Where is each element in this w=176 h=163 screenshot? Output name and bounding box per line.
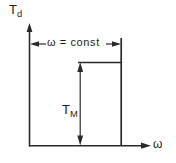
arrow-up-icon [77,62,83,72]
diagram-canvas [0,0,176,163]
height-dimension [77,62,83,146]
arrow-right-icon [112,41,121,47]
y-axis [27,23,33,147]
y-axis-label-base: T [9,2,17,17]
y-axis-label-subscript: d [17,9,22,19]
technical-diagram: Td ω ω = const TM [0,0,176,163]
y-axis-arrowhead-icon [27,23,33,32]
height-dimension-label: TM [62,103,78,119]
x-axis-arrowhead-icon [141,143,151,149]
x-axis [29,143,151,149]
arrow-left-icon [30,41,39,47]
y-axis-label: Td [9,3,22,19]
arrow-down-icon [77,136,83,146]
height-dimension-label-base: T [62,102,70,117]
height-dimension-label-subscript: M [70,109,78,119]
x-axis-label: ω [153,138,162,150]
width-dimension-label: ω = const [47,37,100,48]
